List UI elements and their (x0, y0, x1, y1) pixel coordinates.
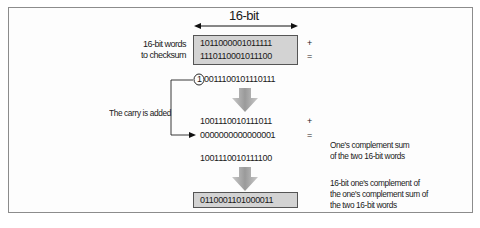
ones-complement-sum-label: One's complement sum of the two 16-bit w… (330, 140, 409, 162)
raw-sum-bits: 0011100101110111 (204, 74, 275, 84)
sum-without-carry: 1001110010111011 (200, 116, 272, 126)
checksum-bits: 0110001101000011 (200, 195, 273, 205)
carry-word: 0000000000000001 (200, 130, 275, 140)
ones-complement-sum: 1001110010111100 (200, 153, 272, 163)
carry-added-label: The carry is added (109, 108, 171, 118)
checksum-label-line2: the one's complement sum of (330, 189, 428, 200)
word-2: 1110110001011100 (200, 51, 272, 61)
checksum-label-line1: 16-bit one's complement of (330, 178, 428, 189)
plus-sign-2: + (307, 116, 312, 126)
word-1: 1011000001011111 (200, 38, 272, 48)
sum-label-line2: of the two 16-bit words (330, 151, 409, 162)
words-label-line1: 16-bit words (130, 39, 186, 50)
equals-sign-2: = (307, 130, 312, 140)
carry-route-arrow-icon (168, 78, 198, 140)
equals-sign-1: = (307, 51, 312, 61)
checksum-label: 16-bit one's complement of the one's com… (330, 178, 428, 211)
sum-label-line1: One's complement sum (330, 140, 409, 151)
down-arrow-icon (232, 88, 258, 112)
checksum-label-line3: the two 16-bit words (330, 200, 428, 211)
words-label-line2: to checksum (130, 50, 186, 61)
width-double-arrow-icon (194, 22, 298, 30)
down-arrow-icon (232, 167, 258, 191)
width-label: 16-bit (229, 8, 259, 23)
words-to-checksum-label: 16-bit words to checksum (130, 39, 186, 61)
plus-sign-1: + (307, 38, 312, 48)
